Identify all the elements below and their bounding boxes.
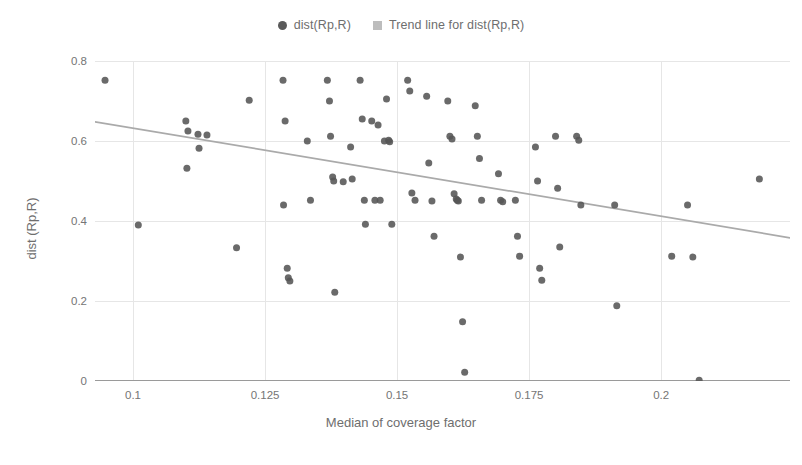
data-point [499,198,506,205]
data-point [459,318,466,325]
data-point [577,202,584,209]
data-point [514,233,521,240]
data-point [406,88,413,95]
data-point [340,178,347,185]
data-point [404,77,411,84]
data-point [102,77,109,84]
plot-area [95,61,790,381]
data-point [330,178,337,185]
data-point [194,131,201,138]
data-point [425,160,432,167]
data-point [756,176,763,183]
data-point [386,138,393,145]
data-point [286,278,293,285]
x-tick-label: 0.15 [386,389,408,401]
data-point [516,253,523,260]
data-point [534,178,541,185]
data-point [532,144,539,151]
y-tick-label: 0 [47,375,87,387]
legend-label-trend: Trend line for dist(Rp,R) [389,18,524,32]
data-point [444,98,451,105]
data-point [536,265,543,272]
data-point [357,77,364,84]
legend-entry-dist[interactable]: dist(Rp,R) [278,18,351,32]
data-point [495,170,502,177]
data-point [423,93,430,100]
data-point [408,190,415,197]
data-point [307,197,314,204]
data-point [196,145,203,152]
data-point [182,118,189,125]
data-point [474,133,481,140]
data-point [284,265,291,272]
data-point [349,176,356,183]
y-axis-title: dist (Rp,R) [24,149,39,309]
data-point [428,198,435,205]
data-point [280,202,287,209]
data-point [696,377,703,381]
data-point [689,254,696,261]
data-point [383,96,390,103]
data-point [556,244,563,251]
data-point [457,254,464,261]
square-swatch-icon [373,21,382,30]
data-point [327,133,334,140]
data-point [684,202,691,209]
data-point [135,222,142,229]
data-point [246,97,253,104]
data-point [203,132,210,139]
data-point [431,233,438,240]
data-point [554,185,561,192]
data-points [102,77,763,381]
scatter-chart: dist(Rp,R) Trend line for dist(Rp,R) 00.… [0,0,802,465]
data-point [388,221,395,228]
legend-label-dist: dist(Rp,R) [294,18,351,32]
data-point [455,198,462,205]
data-point [512,197,519,204]
data-point [183,165,190,172]
x-tick-label: 0.175 [515,389,544,401]
legend-entry-trend[interactable]: Trend line for dist(Rp,R) [373,18,524,32]
data-point [375,122,382,129]
circle-dot-icon [278,21,287,30]
data-point [184,128,191,135]
data-point [668,253,675,260]
data-point [472,102,479,109]
data-point [362,221,369,228]
data-point [613,302,620,309]
data-point [347,144,354,151]
data-point [478,197,485,204]
data-point [412,197,419,204]
data-point [282,118,289,125]
data-point [280,77,287,84]
data-point [368,118,375,125]
data-point [575,137,582,144]
x-axis-title: Median of coverage factor [0,415,802,430]
y-tick-label: 0.8 [47,55,87,67]
y-tick-label: 0.2 [47,295,87,307]
data-point [324,77,331,84]
data-point [331,289,338,296]
data-point [461,369,468,376]
data-point [552,133,559,140]
data-point [359,116,366,123]
data-point [361,197,368,204]
x-tick-label: 0.2 [653,389,669,401]
data-point [377,197,384,204]
trend-line [95,122,790,238]
x-tick-label: 0.125 [251,389,280,401]
x-tick-label: 0.1 [125,389,141,401]
chart-legend: dist(Rp,R) Trend line for dist(Rp,R) [0,18,802,32]
data-point [233,244,240,251]
data-point [449,136,456,143]
x-axis-ticks: 0.10.1250.150.1750.2 [0,389,802,407]
data-point [476,155,483,162]
data-point [538,277,545,284]
y-tick-label: 0.6 [47,135,87,147]
plot-canvas [95,61,790,381]
data-point [326,98,333,105]
y-tick-label: 0.4 [47,215,87,227]
data-point [304,138,311,145]
data-point [611,202,618,209]
